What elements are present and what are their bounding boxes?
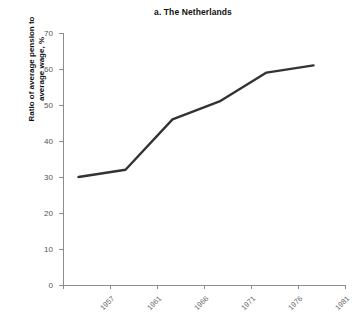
x-tick-label-1966: 1966: [162, 294, 211, 327]
x-tick-5: [298, 285, 299, 289]
data-line-series-1: [79, 65, 314, 177]
y-tick-label-50: 50: [44, 101, 53, 110]
y-tick-label-10: 10: [44, 245, 53, 254]
x-tick-0: [63, 285, 64, 289]
series-layer: [63, 33, 345, 285]
x-tick-label-1971: 1971: [209, 294, 258, 327]
x-tick-3: [204, 285, 205, 289]
y-tick-label-30: 30: [44, 173, 53, 182]
y-tick-label-0: 0: [49, 281, 53, 290]
x-tick-6: [345, 285, 346, 289]
chart-title: a. The Netherlands: [0, 7, 352, 17]
y-tick-label-70: 70: [44, 29, 53, 38]
plot-area: 010203040506070 195719611966197119761981: [63, 33, 345, 285]
x-tick-1: [110, 285, 111, 289]
x-tick-label-1976: 1976: [256, 294, 305, 327]
y-tick-label-40: 40: [44, 137, 53, 146]
y-tick-label-60: 60: [44, 65, 53, 74]
x-tick-label-1961: 1961: [115, 294, 164, 327]
x-tick-label-1957: 1957: [68, 294, 117, 327]
y-tick-label-20: 20: [44, 209, 53, 218]
chart-figure: a. The Netherlands Ratio of average pens…: [0, 0, 352, 327]
x-tick-label-1981: 1981: [303, 294, 352, 327]
x-tick-2: [157, 285, 158, 289]
x-tick-4: [251, 285, 252, 289]
